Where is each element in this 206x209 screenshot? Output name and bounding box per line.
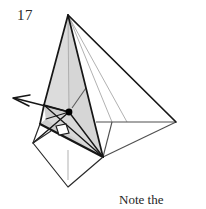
wing-lower-edge xyxy=(103,122,176,157)
foot-vertex-dot xyxy=(66,109,73,116)
caption-line-1: Note the xyxy=(119,192,178,207)
right-angle-marker xyxy=(56,124,69,135)
caption-note: Note the right angle. xyxy=(119,162,178,209)
geometry-figure: 17 Note the right angle. xyxy=(0,0,206,209)
medium-edges xyxy=(96,122,176,157)
right-angle-square xyxy=(56,124,69,135)
wing-joint-connector xyxy=(103,122,112,157)
edge-left-to-kite xyxy=(40,105,44,124)
problem-number-label: 17 xyxy=(17,7,33,24)
